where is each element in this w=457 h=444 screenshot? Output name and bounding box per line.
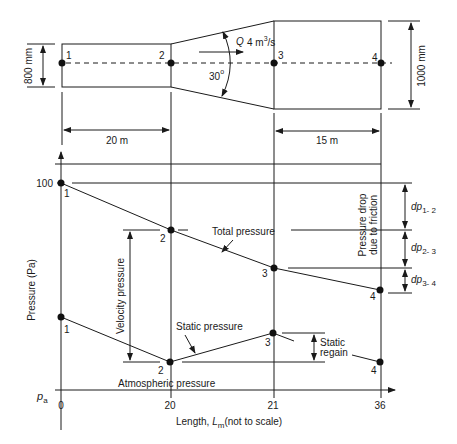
duct-point-4 (378, 60, 385, 67)
x-tick-20: 20 (164, 400, 176, 411)
outlet-duct (274, 21, 381, 109)
dp-2-3-label: dp2- 3 (411, 242, 436, 256)
svg-text:2: 2 (158, 365, 164, 376)
svg-text:3: 3 (265, 337, 271, 348)
friction-drop-label-2: due to friction (368, 195, 379, 255)
total-pressure-label: Total pressure (212, 226, 275, 237)
total-point-3 (271, 265, 278, 272)
x-tick-0: 0 (58, 400, 64, 411)
pa-symbol: p (36, 390, 43, 402)
duct-pressure-diagram: 1 2 3 4 800 mm 1000 mm Q 4 m3/s 30o 20 m… (0, 0, 457, 444)
static-pressure-pointer (185, 335, 195, 353)
y-tick-100: 100 (36, 178, 53, 189)
dp-3-4-label: dp3- 4 (411, 274, 436, 288)
static-point-3 (270, 330, 277, 337)
dp-1-2-label: dp1- 2 (411, 201, 436, 215)
flow-symbol: Q (236, 36, 244, 47)
svg-text:1: 1 (64, 324, 70, 335)
total-point-4 (377, 287, 384, 294)
atmospheric-pressure-label: Atmospheric pressure (118, 378, 216, 389)
total-pressure-pointer (222, 240, 233, 252)
svg-text:2: 2 (160, 233, 166, 244)
duct-label-3: 3 (278, 50, 284, 61)
duct-schematic: 1 2 3 4 800 mm 1000 mm Q 4 m3/s 30o 20 m… (23, 21, 427, 164)
angle-value: 30 (209, 71, 221, 82)
static-point-1 (58, 314, 65, 321)
svg-text:pa: pa (36, 390, 48, 405)
total-point-2 (168, 227, 175, 234)
pressure-chart: 100 Pressure (Pa) pa 0 20 21 36 Length, … (26, 152, 436, 430)
static-regain-label-2: regain (320, 347, 348, 358)
duct-point-1 (59, 60, 66, 67)
svg-text:4: 4 (370, 291, 376, 302)
static-pressure-label: Static pressure (176, 321, 243, 332)
static-point-4 (377, 359, 384, 366)
x-tick-21: 21 (267, 400, 279, 411)
inlet-duct (62, 44, 171, 87)
duct-label-4: 4 (372, 52, 378, 63)
diffuser-angle-arc (222, 32, 230, 96)
x-axis-label: Length, Lm(not to scale) (176, 416, 282, 430)
inlet-diameter-label: 800 mm (23, 48, 34, 84)
flow-value: 4 m (247, 37, 264, 48)
duct-point-3 (271, 60, 278, 67)
length-3-4-label: 15 m (316, 135, 338, 146)
duct-label-2: 2 (159, 50, 165, 61)
static-point-2 (167, 359, 174, 366)
svg-text:30o: 30o (209, 68, 224, 82)
total-point-1 (58, 180, 65, 187)
outlet-diameter-label: 1000 mm (416, 45, 427, 87)
diffuser-bottom (171, 87, 274, 109)
svg-text:3: 3 (262, 268, 268, 279)
duct-label-1: 1 (66, 50, 72, 61)
y-axis-label: Pressure (Pa) (26, 259, 37, 321)
x-tick-36: 36 (374, 400, 386, 411)
svg-text:4: 4 (371, 365, 377, 376)
velocity-pressure-label: Velocity pressure (115, 257, 126, 334)
svg-text:1: 1 (64, 188, 70, 199)
svg-text:4 m3/s: 4 m3/s (247, 35, 275, 48)
duct-point-2 (168, 60, 175, 67)
length-1-2-label: 20 m (106, 135, 128, 146)
friction-drop-label-1: Pressure drop (357, 193, 368, 256)
